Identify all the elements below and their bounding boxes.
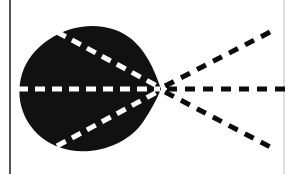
figure-container: Radiation lobe pattern with dashed beam … [0, 0, 290, 174]
diagram-canvas [0, 0, 290, 174]
